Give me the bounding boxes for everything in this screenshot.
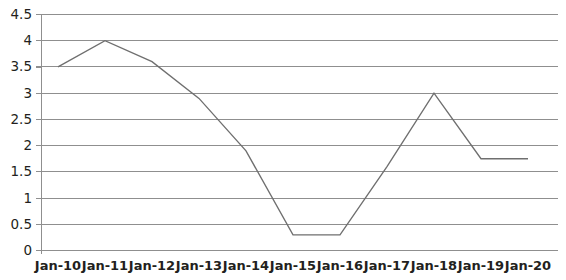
- y-tick-label: 0: [23, 242, 32, 258]
- x-tick-label: Jan-16: [316, 258, 363, 273]
- y-tick-label: 4.5: [11, 6, 32, 22]
- x-tick-label: Jan-20: [504, 258, 551, 273]
- x-tick-label: Jan-10: [34, 258, 81, 273]
- y-tick-label: 0.5: [11, 216, 32, 232]
- x-axis-tick-labels: Jan-10 Jan-11 Jan-12 Jan-13 Jan-14 Jan-1…: [34, 258, 551, 273]
- x-tick-label: Jan-15: [269, 258, 316, 273]
- line-chart: 4.5 4 3.5 3 2.5 2 1.5 1 0.5 0 Jan-10 Jan…: [0, 0, 566, 280]
- x-tick-label: Jan-12: [128, 258, 175, 273]
- data-series-line: [58, 41, 528, 235]
- y-tick-label: 2.5: [11, 111, 32, 127]
- y-tick-label: 4: [23, 32, 32, 48]
- y-axis-tick-labels: 4.5 4 3.5 3 2.5 2 1.5 1 0.5 0: [11, 6, 32, 258]
- y-axis: [36, 15, 42, 255]
- x-tick-label: Jan-19: [457, 258, 504, 273]
- chart-canvas: 4.5 4 3.5 3 2.5 2 1.5 1 0.5 0 Jan-10 Jan…: [0, 0, 566, 280]
- y-tick-label: 3.5: [11, 58, 32, 74]
- gridlines: [41, 15, 558, 251]
- x-tick-label: Jan-13: [175, 258, 222, 273]
- y-tick-label: 1: [23, 190, 32, 206]
- y-tick-label: 2: [23, 137, 32, 153]
- x-tick-label: Jan-11: [81, 258, 128, 273]
- x-tick-label: Jan-14: [222, 258, 269, 273]
- x-tick-label: Jan-17: [363, 258, 410, 273]
- y-tick-label: 1.5: [11, 163, 32, 179]
- y-tick-label: 3: [23, 85, 32, 101]
- x-tick-label: Jan-18: [410, 258, 457, 273]
